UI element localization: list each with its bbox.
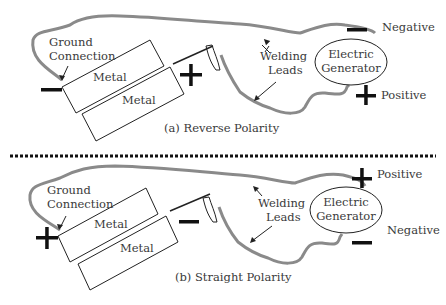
terminal-label: Negative [387, 224, 440, 237]
arrow-up-icon [262, 37, 270, 45]
terminal-label: Positive [377, 168, 422, 181]
ground-label: Ground [49, 36, 93, 49]
ground-minus-icon [41, 88, 62, 92]
welding-label: Leads [266, 211, 301, 224]
generator-label: Generator [313, 210, 379, 223]
electrode-minus-icon [179, 220, 199, 224]
metal-label: Metal [120, 242, 154, 255]
generator-label: Electric [318, 48, 384, 61]
ground-label: Connection [49, 50, 115, 63]
caption: (a) Reverse Polarity [164, 122, 279, 135]
electrode-holder [203, 197, 217, 222]
welding-label: Welding [260, 50, 307, 63]
ground-label: Ground [47, 184, 91, 197]
metal-label: Metal [93, 71, 127, 84]
generator-minus-icon [347, 28, 367, 32]
generator-label: Electric [313, 196, 379, 209]
terminal-label: Positive [381, 89, 426, 102]
arrow-down-icon [250, 237, 256, 243]
caption: (b) Straight Polarity [175, 271, 292, 284]
terminal-label: Negative [382, 21, 435, 34]
metal-label: Metal [94, 218, 128, 231]
generator-minus-icon [352, 241, 372, 245]
welding-label: Welding [258, 197, 305, 210]
metal-label: Metal [122, 94, 156, 107]
electrode-rod [173, 46, 213, 64]
generator-label: Generator [318, 62, 384, 75]
welding-label: Leads [268, 64, 303, 77]
ground-label: Connection [47, 198, 113, 211]
